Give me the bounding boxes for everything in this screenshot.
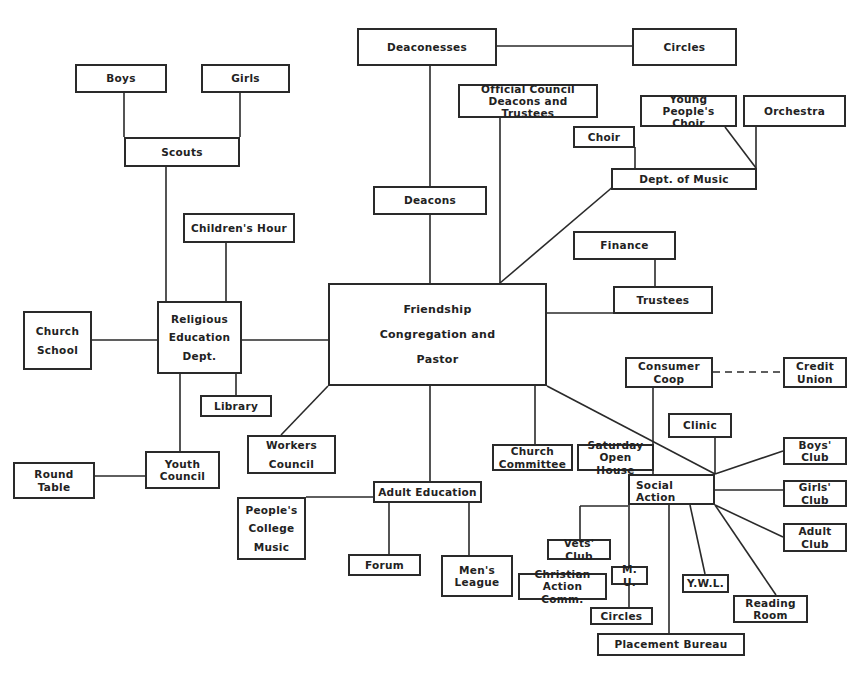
- node-orchestra: Orchestra: [743, 95, 846, 127]
- node-reading-room: Reading Room: [733, 595, 808, 623]
- node-youth-council: Youth Council: [145, 451, 220, 489]
- node-official-council: Official Council Deacons and Trustees: [458, 84, 598, 118]
- node-church-school: Church School: [23, 311, 92, 370]
- node-ywl: Y.W.L.: [682, 574, 729, 593]
- node-girls-club: Girls' Club: [783, 480, 847, 507]
- node-boys-club: Boys' Club: [783, 437, 847, 465]
- node-childrens-hour: Children's Hour: [183, 213, 295, 243]
- node-circles-top: Circles: [632, 28, 737, 66]
- node-religious-education-dept: Religious Education Dept.: [157, 301, 242, 374]
- node-girls: Girls: [201, 64, 290, 93]
- node-mu: M. U.: [611, 566, 648, 585]
- node-deacons: Deacons: [373, 186, 487, 215]
- node-young-peoples-choir: Young People's Choir: [640, 95, 737, 127]
- node-dept-of-music: Dept. of Music: [611, 168, 757, 190]
- node-library: Library: [200, 395, 272, 417]
- edge-ypchoir-dept-music: [725, 127, 756, 168]
- node-christian-action-comm: Christian Action Comm.: [518, 573, 607, 600]
- node-scouts: Scouts: [124, 137, 240, 167]
- node-choir: Choir: [573, 126, 635, 148]
- edge-friendship-workers-council: [281, 386, 328, 435]
- node-round-table: Round Table: [13, 462, 95, 499]
- org-chart: Deaconesses Circles Boys Girls Scouts Of…: [0, 0, 863, 690]
- node-mens-league: Men's League: [441, 555, 513, 597]
- node-clinic: Clinic: [668, 413, 732, 438]
- node-saturday-open-house: Saturday Open House: [577, 444, 654, 471]
- node-credit-union: Credit Union: [783, 357, 847, 388]
- edge-social-action-boys-club: [715, 451, 783, 474]
- node-peoples-college-music: People's College Music: [237, 497, 306, 560]
- node-forum: Forum: [348, 554, 421, 576]
- node-boys: Boys: [75, 64, 167, 93]
- edge-social-action-ywl: [690, 505, 705, 574]
- node-circles-bottom: Circles: [590, 607, 653, 625]
- node-adult-club: Adult Club: [783, 523, 847, 552]
- node-adult-education: Adult Education: [373, 481, 482, 503]
- node-deaconesses: Deaconesses: [357, 28, 497, 66]
- node-church-committee: Church Committee: [492, 444, 573, 471]
- node-workers-council: Workers Council: [247, 435, 336, 474]
- node-consumer-coop: Consumer Coop: [625, 357, 713, 388]
- node-friendship-congregation-pastor: Friendship Congregation and Pastor: [328, 283, 547, 386]
- node-finance: Finance: [573, 231, 676, 260]
- node-trustees: Trustees: [613, 286, 713, 314]
- node-placement-bureau: Placement Bureau: [597, 633, 745, 656]
- node-social-action: Social Action: [628, 474, 715, 505]
- node-vets-club: Vets' Club: [547, 539, 611, 560]
